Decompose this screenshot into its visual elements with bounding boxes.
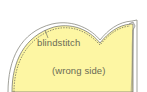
sewing-diagram: blindstitch (wrong side)	[0, 0, 147, 92]
blindstitch-label: blindstitch	[37, 37, 80, 48]
wrong-side-label: (wrong side)	[52, 65, 105, 76]
